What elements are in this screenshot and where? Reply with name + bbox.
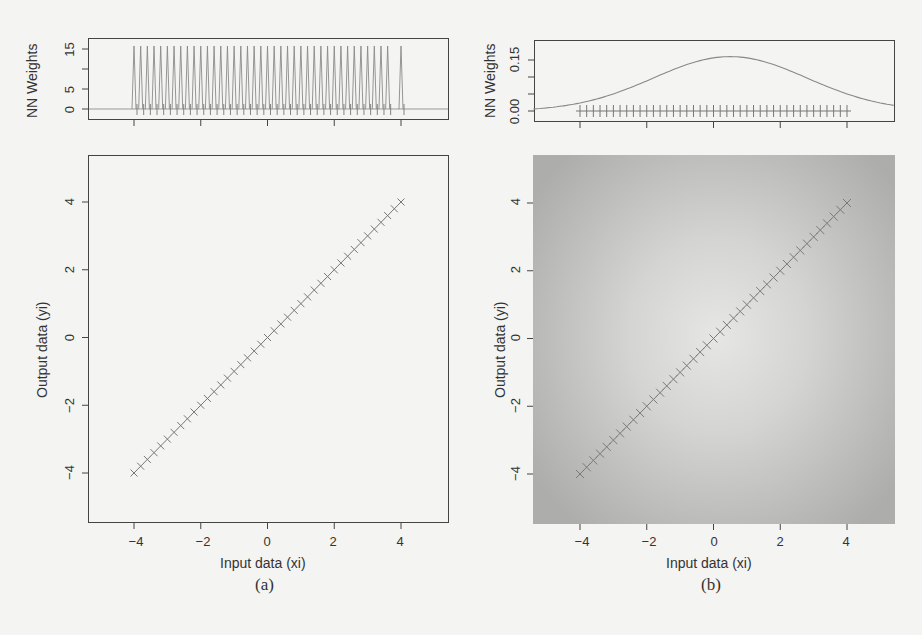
panel-b-caption: (b) [701,575,721,595]
panel-b-xtick-2: 2 [765,534,795,549]
panel-b-xtick-neg2: −2 [634,534,664,549]
panel-b-xlabel: Input data (xi) [666,555,752,571]
panel-b-xtick-0: 0 [699,534,729,549]
panel-b-xtick-neg4: −4 [567,534,597,549]
panel-b-xtick-4: 4 [831,534,861,549]
